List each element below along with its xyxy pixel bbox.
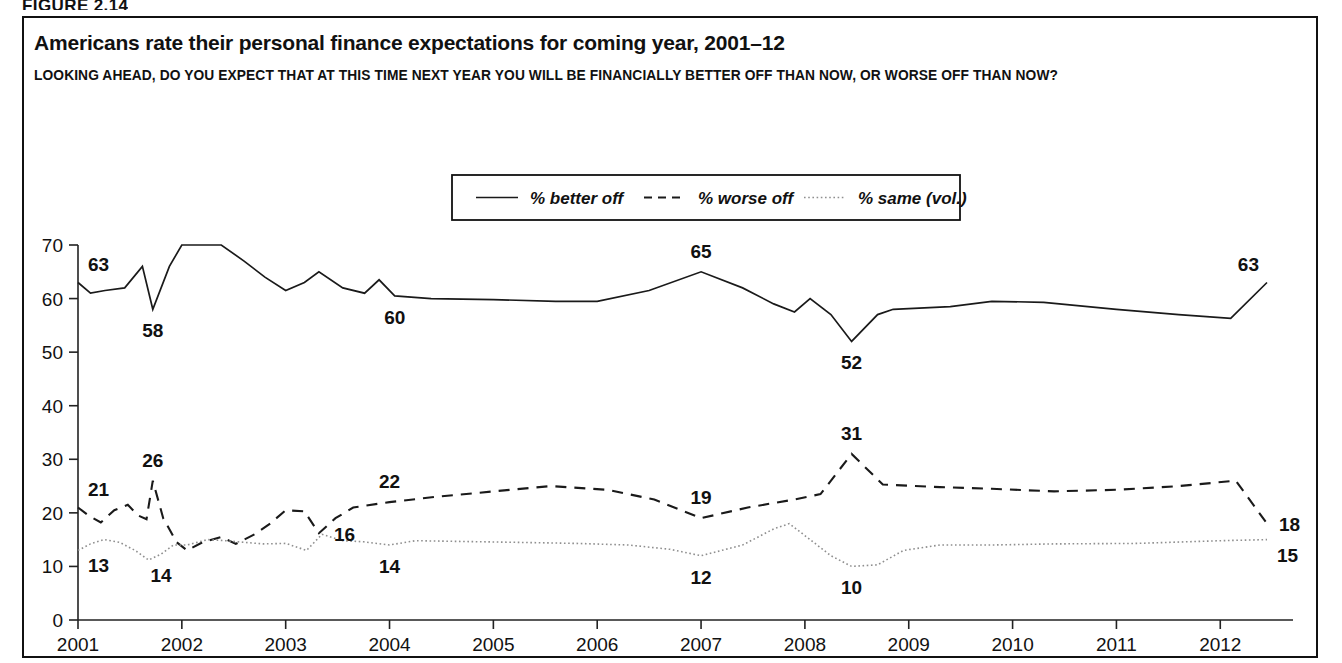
x-tick-label: 2004: [368, 634, 411, 655]
data-point-label: 58: [142, 320, 163, 341]
x-tick-label: 2005: [472, 634, 514, 655]
chart-data-labels: 63586065526321262219311813141614121015: [88, 241, 1300, 599]
data-point-label: 26: [142, 450, 163, 471]
x-tick-label: 2009: [888, 634, 930, 655]
x-tick-label: 2003: [265, 634, 307, 655]
x-tick-label: 2012: [1199, 634, 1241, 655]
figure-frame: Americans rate their personal finance ex…: [22, 16, 1318, 658]
data-point-label: 22: [379, 471, 400, 492]
data-point-label: 14: [151, 565, 173, 586]
line-chart-plot: % better off% worse off% same (vol.) 010…: [24, 18, 1320, 660]
y-tick-label: 70: [42, 235, 63, 256]
series-line-dotted: [78, 524, 1267, 567]
series-line-dashed: [78, 454, 1267, 551]
data-point-label: 16: [334, 524, 355, 545]
x-tick-label: 2001: [57, 634, 99, 655]
y-tick-label: 0: [52, 610, 63, 631]
legend-label: % better off: [530, 189, 626, 208]
data-point-label: 19: [690, 487, 711, 508]
y-tick-label: 20: [42, 503, 63, 524]
y-tick-label: 10: [42, 556, 63, 577]
data-point-label: 63: [1238, 254, 1259, 275]
chart-series: [78, 245, 1267, 566]
data-point-label: 63: [88, 254, 109, 275]
data-point-label: 18: [1279, 514, 1300, 535]
x-tick-label: 2008: [784, 634, 826, 655]
series-line-solid: [78, 245, 1267, 341]
y-tick-label: 60: [42, 289, 63, 310]
y-tick-label: 50: [42, 342, 63, 363]
x-tick-label: 2007: [680, 634, 722, 655]
x-tick-label: 2002: [161, 634, 203, 655]
legend-label: % worse off: [698, 189, 795, 208]
data-point-label: 60: [384, 307, 405, 328]
x-tick-label: 2011: [1096, 634, 1137, 655]
data-point-label: 14: [379, 556, 401, 577]
data-point-label: 15: [1277, 545, 1299, 566]
x-tick-label: 2006: [576, 634, 618, 655]
chart-axes: 0102030405060702001200220032004200520062…: [42, 235, 1293, 655]
data-point-label: 13: [88, 555, 109, 576]
y-tick-label: 30: [42, 449, 63, 470]
data-point-label: 65: [690, 241, 712, 262]
legend-label: % same (vol.): [858, 189, 967, 208]
data-point-label: 21: [88, 479, 110, 500]
data-point-label: 12: [690, 567, 711, 588]
data-point-label: 31: [841, 423, 863, 444]
figure-number-label: FIGURE 2.14: [22, 0, 128, 10]
y-tick-label: 40: [42, 396, 63, 417]
data-point-label: 52: [841, 352, 862, 373]
x-tick-label: 2010: [991, 634, 1033, 655]
chart-legend: % better off% worse off% same (vol.): [452, 175, 967, 220]
data-point-label: 10: [841, 577, 862, 598]
